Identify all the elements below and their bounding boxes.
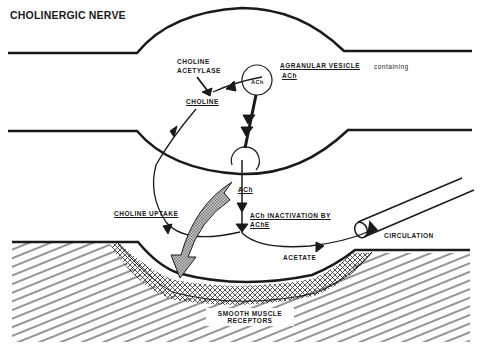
label-inactivation-1: ACh INACTIVATION BY — [250, 212, 331, 219]
label-choline-acetylase-1: CHOLINE — [177, 58, 210, 65]
label-released-ach: ACh — [238, 186, 253, 193]
label-receptors: SMOOTH MUSCLE RECEPTORS — [206, 308, 294, 326]
acetate-path — [242, 231, 370, 252]
vesicle-fusing — [231, 147, 259, 170]
label-containing: containing — [374, 63, 409, 70]
ach-diffusion-arrow — [171, 182, 232, 278]
label-agranular-vesicle: AGRANULAR VESICLE — [280, 62, 360, 69]
label-vesicle-ach: ACh — [251, 79, 264, 85]
label-inactivation-2: AChE — [250, 221, 270, 228]
smooth-muscle-tissue — [12, 242, 470, 342]
label-choline: CHOLINE — [186, 98, 219, 105]
label-receptors-2: RECEPTORS — [210, 317, 290, 324]
diagram-title: CHOLINERGIC NERVE — [10, 9, 126, 21]
choline-acetylase-arrow — [197, 77, 212, 96]
label-vesicle-caption-ach: ACh — [282, 72, 297, 79]
cholinergic-nerve-diagram — [0, 0, 484, 352]
label-choline-acetylase-2: ACETYLASE — [177, 67, 221, 74]
blood-vessel — [352, 178, 474, 240]
nerve-fiber — [8, 8, 472, 174]
label-acetate: ACETATE — [283, 254, 316, 261]
label-choline-uptake: CHOLINE UPTAKE — [114, 210, 178, 217]
ach-release-path — [236, 160, 248, 233]
label-circulation: CIRCULATION — [384, 232, 434, 239]
vesicle-transport-arrow — [241, 95, 256, 148]
label-receptors-1: SMOOTH MUSCLE — [210, 310, 290, 317]
